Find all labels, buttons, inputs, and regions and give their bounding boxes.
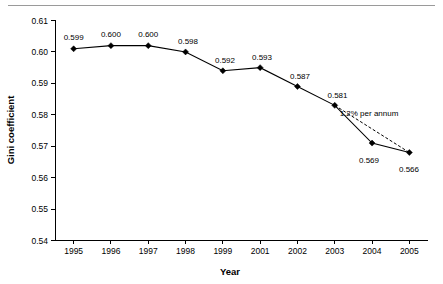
y-tick-label: 0.57 (31, 141, 48, 151)
line-chart: 0.54 0.55 0.56 0.57 0.58 0.59 0.60 0.61 … (0, 0, 443, 284)
y-axis-title: Gini coefficient (5, 95, 16, 164)
y-tick-label: 0.59 (31, 78, 48, 88)
x-tick-label: 1996 (101, 246, 120, 256)
y-tick-label: 0.61 (31, 16, 48, 26)
data-point-label: 0.566 (399, 165, 420, 174)
x-tick-label: 2004 (363, 246, 382, 256)
y-tick-label: 0.56 (31, 173, 48, 183)
data-point-label: 0.600 (101, 30, 122, 39)
x-tick-label: 1999 (213, 246, 232, 256)
y-tick-label: 0.55 (31, 204, 48, 214)
x-tick-label: 1998 (176, 246, 195, 256)
x-tick-label: 2001 (251, 246, 270, 256)
data-point-label: 0.598 (178, 37, 199, 46)
x-tick-label: 2005 (400, 246, 419, 256)
data-point-label: 0.569 (359, 156, 380, 165)
x-axis-title: Year (220, 266, 240, 277)
data-point-label: 0.593 (252, 53, 273, 62)
y-tick-label: 0.60 (31, 47, 48, 57)
data-point-label: 0.592 (215, 56, 236, 65)
y-axis-ticks: 0.54 0.55 0.56 0.57 0.58 0.59 0.60 0.61 (31, 16, 55, 246)
x-tick-label: 2003 (325, 246, 344, 256)
data-point-label: 0.587 (290, 72, 311, 81)
data-point-label: 0.599 (64, 33, 85, 42)
trend-annotation-label: 1.2% per annum (340, 109, 399, 118)
data-point-label: 0.600 (138, 30, 159, 39)
x-tick-label: 1995 (64, 246, 83, 256)
x-tick-label: 1997 (139, 246, 158, 256)
y-tick-label: 0.58 (31, 110, 48, 120)
x-axis-ticks: 1995 1996 1997 1998 1999 2001 2002 2003 … (64, 240, 419, 256)
figure-container: 0.54 0.55 0.56 0.57 0.58 0.59 0.60 0.61 … (0, 0, 443, 284)
y-tick-label: 0.54 (31, 236, 48, 246)
x-tick-label: 2002 (288, 246, 307, 256)
plot-area-background (55, 20, 428, 240)
data-point-label: 0.581 (327, 91, 348, 100)
